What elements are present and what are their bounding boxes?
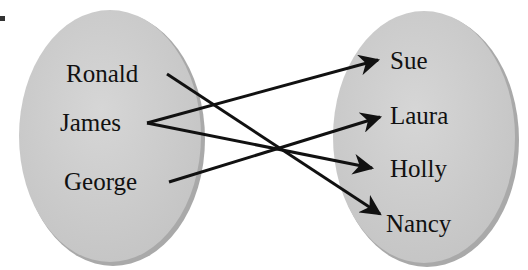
range-label-holly: Holly	[390, 155, 447, 182]
range-label-nancy: Nancy	[386, 210, 452, 237]
range-label-laura: Laura	[390, 102, 448, 129]
domain-label-james: James	[60, 109, 121, 136]
range-label-sue: Sue	[390, 47, 428, 74]
diagram-canvas: Ronald James George Sue Laura Holly Nanc…	[0, 0, 528, 270]
mapping-diagram: Ronald James George Sue Laura Holly Nanc…	[0, 0, 528, 270]
domain-label-george: George	[64, 168, 137, 195]
domain-label-ronald: Ronald	[66, 60, 139, 87]
domain-set-ellipse	[19, 10, 205, 266]
